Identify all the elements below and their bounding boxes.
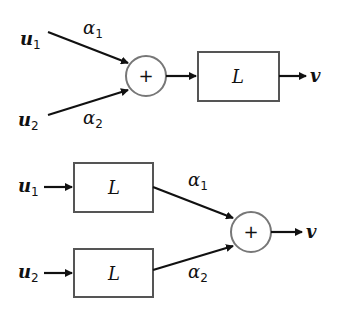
bottom-plus-sign: + — [243, 221, 258, 242]
top-plus-sign: + — [138, 65, 153, 86]
bottom-arrow-alpha1 — [153, 187, 233, 218]
top-L-label: L — [231, 66, 244, 87]
top-input-u1: u1 — [20, 28, 41, 52]
bottom-L-label-2: L — [107, 263, 120, 284]
top-gain-alpha2: α2 — [83, 107, 103, 131]
top-input-u2: u2 — [18, 109, 39, 133]
bottom-diagram: u1 L u2 L α1 α2 + v — [18, 163, 317, 297]
bottom-input-u2: u2 — [18, 261, 39, 285]
bottom-output-v: v — [306, 221, 317, 242]
top-diagram: u1 α1 u2 α2 + L v — [18, 17, 321, 133]
bottom-gain-alpha2: α2 — [188, 261, 208, 285]
bottom-input-u1: u1 — [18, 175, 39, 199]
linearity-block-diagram: u1 α1 u2 α2 + L v u1 L u2 L α1 — [0, 0, 342, 309]
bottom-L-label-1: L — [107, 177, 120, 198]
bottom-gain-alpha1: α1 — [188, 169, 208, 193]
top-output-v: v — [310, 65, 321, 86]
top-gain-alpha1: α1 — [83, 17, 103, 41]
